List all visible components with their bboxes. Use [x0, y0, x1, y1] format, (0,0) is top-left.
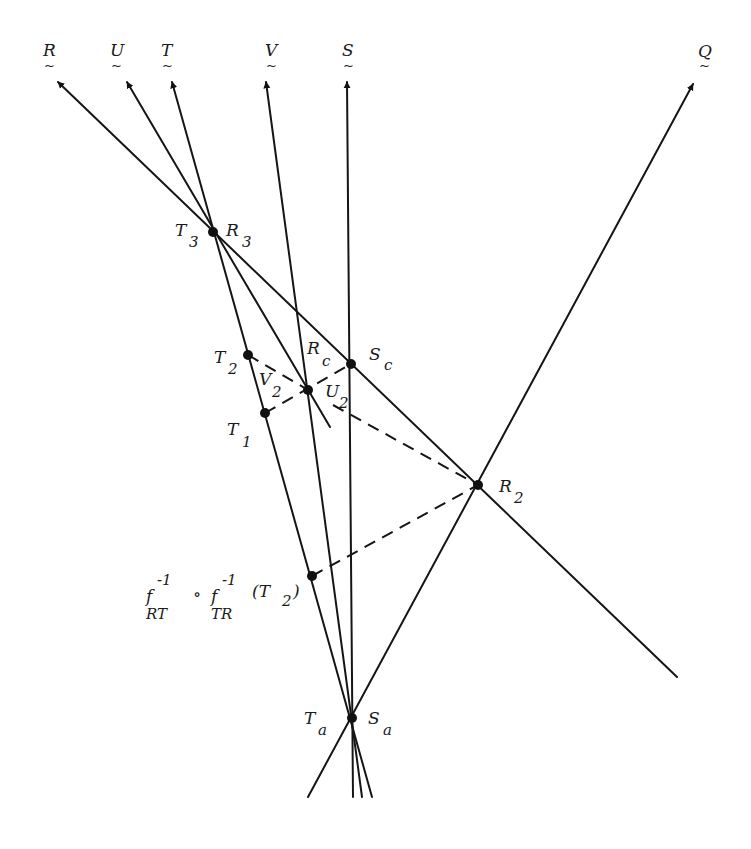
svg-text:U: U — [325, 381, 340, 401]
svg-text:~: ~ — [111, 58, 122, 73]
svg-text:T: T — [175, 220, 188, 240]
ray-label-T: T ~ — [161, 40, 174, 73]
svg-text:f: f — [209, 586, 220, 606]
svg-text:~: ~ — [162, 58, 173, 73]
svg-text:U: U — [110, 40, 125, 60]
svg-text:S: S — [342, 40, 354, 60]
svg-text:V: V — [259, 369, 273, 389]
svg-text:T: T — [227, 419, 240, 439]
point-T2 — [243, 350, 253, 360]
svg-text:2: 2 — [281, 592, 292, 610]
svg-text:TR: TR — [211, 605, 232, 623]
svg-text:(T: (T — [252, 581, 272, 601]
label-T2: T 2 — [214, 347, 238, 378]
ray-label-R: R ~ — [42, 40, 56, 73]
ray-Q-line — [308, 84, 693, 797]
ray-label-S: S ~ — [342, 40, 354, 73]
svg-text:3: 3 — [242, 233, 252, 251]
label-V2: V 2 — [259, 369, 282, 401]
svg-text:∘: ∘ — [193, 584, 201, 604]
svg-text:T: T — [161, 40, 174, 60]
svg-text:): ) — [292, 581, 300, 601]
svg-text:2: 2 — [338, 394, 349, 412]
label-T1: T 1 — [227, 419, 252, 451]
svg-text:S: S — [369, 344, 381, 364]
point-Ta-Sa — [347, 713, 357, 723]
svg-text:R: R — [306, 338, 320, 358]
svg-text:a: a — [383, 721, 392, 739]
point-Rc-U2 — [303, 385, 313, 395]
label-Sa: S a — [368, 708, 392, 739]
ray-label-U: U ~ — [110, 40, 125, 73]
svg-text:V: V — [265, 40, 279, 60]
point-f — [307, 571, 317, 581]
ray-label-V: V ~ — [265, 40, 279, 73]
svg-text:T: T — [304, 708, 317, 728]
svg-text:1: 1 — [242, 433, 252, 451]
svg-text:~: ~ — [266, 58, 277, 73]
svg-text:2: 2 — [271, 383, 282, 401]
svg-text:a: a — [318, 721, 327, 739]
svg-text:-1: -1 — [157, 571, 172, 589]
label-R2: R 2 — [498, 476, 524, 507]
svg-text:~: ~ — [44, 58, 55, 73]
svg-text:T: T — [214, 347, 227, 367]
svg-text:RT: RT — [145, 605, 168, 623]
formula-label: f -1 RT ∘ f -1 TR (T 2 ) — [144, 571, 300, 623]
point-T1 — [260, 408, 270, 418]
svg-text:2: 2 — [513, 489, 524, 507]
svg-text:3: 3 — [189, 233, 199, 251]
dashed-f-R2 — [312, 485, 478, 576]
svg-text:R: R — [225, 220, 239, 240]
ray-T-line — [172, 82, 372, 797]
svg-text:c: c — [322, 352, 331, 370]
ray-label-Q: Q ~ — [698, 41, 712, 73]
svg-text:S: S — [368, 708, 380, 728]
svg-text:~: ~ — [699, 58, 710, 73]
point-Sc — [346, 359, 356, 369]
label-Rc: R c — [306, 338, 331, 370]
label-Ta: T a — [304, 708, 327, 739]
svg-text:R: R — [498, 476, 512, 496]
point-R2 — [473, 480, 483, 490]
label-Sc: S c — [369, 344, 393, 374]
svg-text:c: c — [384, 356, 393, 374]
svg-text:2: 2 — [227, 360, 238, 378]
label-T3: T 3 — [175, 220, 199, 251]
point-T3-R3 — [208, 227, 218, 237]
svg-text:R: R — [42, 40, 56, 60]
svg-text:-1: -1 — [222, 571, 237, 589]
geometry-diagram: R ~ U ~ T ~ V ~ S ~ Q ~ T 3 R 3 T 2 V 2 … — [0, 0, 751, 849]
svg-text:~: ~ — [343, 58, 354, 73]
svg-text:f: f — [144, 586, 155, 606]
